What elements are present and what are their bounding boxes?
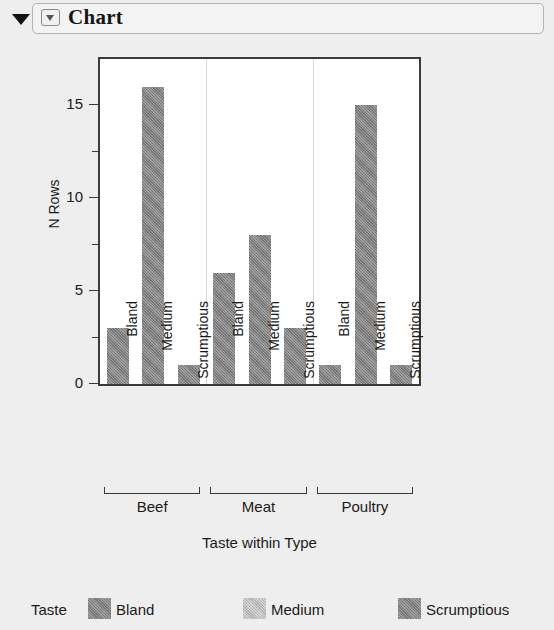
chart-menu-triangle-icon[interactable]: [41, 9, 60, 26]
legend-title: Taste: [31, 601, 67, 618]
y-axis-tick-major: [89, 290, 98, 291]
legend-label: Medium: [271, 601, 324, 618]
group-bracket: [210, 487, 306, 494]
triangle-down-glyph: [46, 15, 54, 21]
x-axis-category-label: Bland: [230, 301, 246, 391]
group-bracket: [317, 487, 413, 494]
x-axis-category-label: Scrumptious: [301, 301, 317, 391]
x-axis-category-label: Medium: [266, 301, 282, 391]
x-axis-group-label: Poultry: [317, 498, 413, 515]
y-axis-tick-major: [89, 383, 98, 384]
legend-swatch: [398, 598, 421, 619]
x-axis-title: Taste within Type: [98, 534, 421, 551]
x-axis-group-label: Meat: [210, 498, 306, 515]
x-axis-category-label: Scrumptious: [195, 301, 211, 391]
y-axis-tick-major: [89, 197, 98, 198]
group-bracket: [104, 487, 200, 494]
x-axis-category-label: Medium: [372, 301, 388, 391]
disclosure-triangle-down-icon[interactable]: [12, 14, 30, 25]
legend-label: Scrumptious: [426, 601, 509, 618]
y-axis-title: N Rows: [46, 144, 62, 264]
y-axis-tick-label: 0: [47, 374, 83, 391]
y-axis-tick-label: 15: [47, 95, 83, 112]
x-axis-category-label: Bland: [336, 301, 352, 391]
x-axis-category-label: Scrumptious: [407, 301, 423, 391]
legend-swatch: [88, 598, 111, 619]
page-title: Chart: [68, 5, 123, 30]
x-axis-category-label: Bland: [124, 301, 140, 391]
x-axis-category-label: Medium: [159, 301, 175, 391]
x-axis-group-label: Beef: [104, 498, 200, 515]
legend-label: Bland: [116, 601, 154, 618]
y-axis-tick-label: 5: [47, 281, 83, 298]
legend: Taste BlandMediumScrumptious: [0, 596, 554, 626]
y-axis-tick-major: [89, 104, 98, 105]
legend-swatch: [243, 598, 266, 619]
chart-panel-header: Chart: [0, 0, 554, 40]
